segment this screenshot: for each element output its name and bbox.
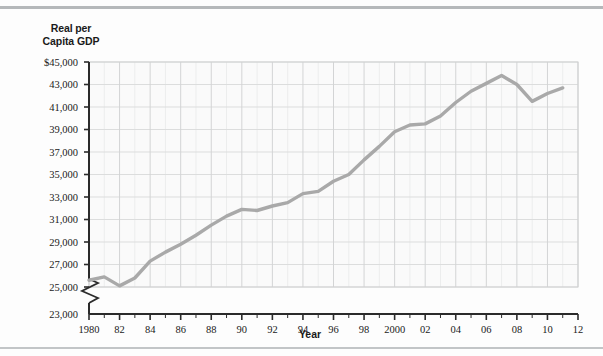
x-tick-label: 96 [328,324,339,335]
x-tick-label: 06 [481,324,492,335]
y-axis-tick-labels: $45,00043,00041,00039,00037,00035,00033,… [44,57,78,320]
x-tick-label: 90 [237,324,248,335]
y-tick-label: 35,000 [49,169,78,180]
x-axis-tick-labels: 19808284868890929496982000020406081012 [79,324,584,335]
y-tick-label: 27,000 [49,259,78,270]
x-tick-label: 84 [145,324,156,335]
x-tick-label: 08 [512,324,523,335]
x-tick-label: 04 [451,324,462,335]
x-tick-label: 82 [114,324,125,335]
y-tick-label: $45,000 [44,57,78,68]
x-tick-label: 88 [206,324,217,335]
y-tick-label: 25,000 [49,282,78,293]
x-axis-title: Year [299,328,321,340]
x-tick-label: 02 [420,324,431,335]
y-tick-label: 37,000 [49,147,78,158]
y-tick-label: 23,000 [49,309,78,320]
y-tick-label: 41,000 [49,102,78,113]
x-tick-label: 86 [175,324,186,335]
x-tick-label: 12 [573,324,584,335]
x-tick-label: 1980 [79,324,100,335]
x-tick-label: 92 [267,324,278,335]
y-tick-label: 39,000 [49,124,78,135]
y-tick-label: 33,000 [49,192,78,203]
x-tick-label: 2000 [384,324,405,335]
chart-page: Real per Capita GDP $45,00043,00041,0003… [0,0,603,356]
x-tick-label: 10 [542,324,553,335]
y-tick-label: 31,000 [49,214,78,225]
x-tick-label: 98 [359,324,370,335]
y-tick-label: 29,000 [49,237,78,248]
y-tick-label: 43,000 [49,79,78,90]
line-chart: $45,00043,00041,00039,00037,00035,00033,… [0,0,603,356]
